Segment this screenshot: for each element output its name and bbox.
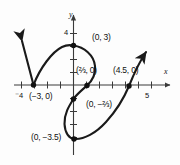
label-point-two-thirds-0: (⅔, 0)	[76, 66, 97, 75]
label-point-neg3-0: (−3, 0)	[29, 92, 52, 101]
point-0-neg3p5	[71, 136, 76, 141]
point-0-neg-two-thirds	[71, 96, 76, 101]
x-tick-label-neg4: ⁻4	[15, 92, 23, 100]
label-point-0-neg-two-thirds: (0, −⅔)	[86, 100, 112, 109]
point-0-3	[71, 43, 76, 48]
point-4p5-0	[126, 83, 131, 88]
y-tick-label-4: 4	[64, 29, 68, 37]
x-axis-label: x	[164, 68, 168, 76]
label-point-4p5-0: (4.5, 0)	[113, 66, 138, 75]
x-tick-label-5: 5	[145, 92, 149, 100]
label-point-0-3: (0, 3)	[92, 33, 111, 42]
label-point-0-neg3p5: (0, −3.5)	[31, 133, 61, 142]
graph-canvas	[0, 0, 180, 165]
math-figure: (0, 3) (⅔, 0) (4.5, 0) (−3, 0) (0, −⅔) (…	[0, 0, 180, 165]
y-axis-label: y	[69, 11, 73, 19]
x-axis	[14, 82, 170, 89]
point-two-thirds-0	[84, 83, 89, 88]
point-neg3-0	[31, 82, 36, 87]
